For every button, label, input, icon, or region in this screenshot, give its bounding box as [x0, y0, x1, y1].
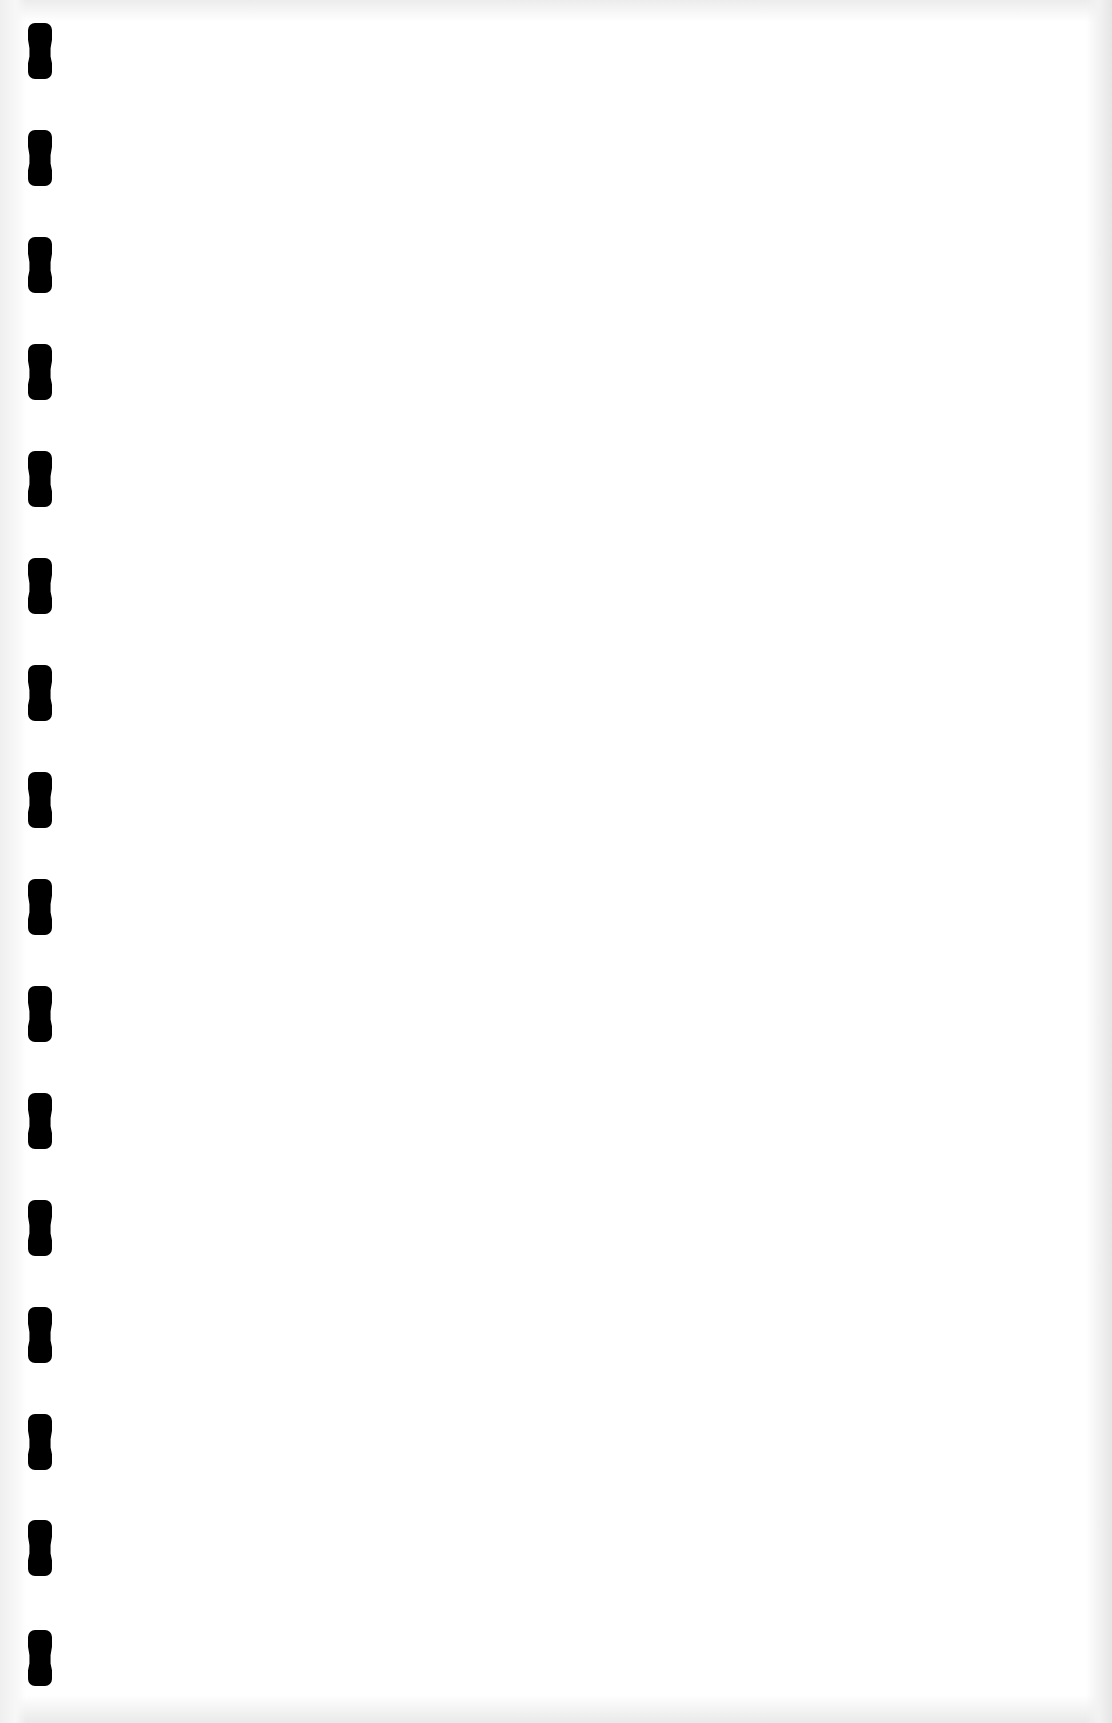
- scanned-page: [0, 0, 1112, 1723]
- binding-hole: [28, 130, 52, 186]
- binding-hole: [28, 237, 52, 293]
- binding-hole: [28, 1093, 52, 1149]
- binding-hole: [28, 1630, 52, 1686]
- binding-hole: [28, 451, 52, 507]
- binding-hole-strip: [0, 0, 80, 1723]
- binding-hole: [28, 23, 52, 79]
- binding-hole: [28, 344, 52, 400]
- binding-hole: [28, 558, 52, 614]
- binding-hole: [28, 1520, 52, 1576]
- binding-hole: [28, 772, 52, 828]
- binding-hole: [28, 1414, 52, 1470]
- binding-hole: [28, 1200, 52, 1256]
- binding-hole: [28, 879, 52, 935]
- binding-hole: [28, 665, 52, 721]
- binding-hole: [28, 986, 52, 1042]
- scan-edge-bottom: [0, 1695, 1112, 1723]
- scan-edge-top: [0, 0, 1112, 22]
- binding-hole: [28, 1307, 52, 1363]
- scan-edge-right: [1086, 0, 1112, 1723]
